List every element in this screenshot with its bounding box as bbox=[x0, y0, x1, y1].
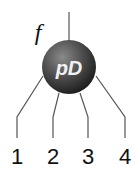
leg-4-label: 4 bbox=[119, 144, 131, 169]
leg-2-line bbox=[53, 93, 59, 138]
leg-2-label: 2 bbox=[47, 144, 59, 169]
leg-1-label: 1 bbox=[11, 144, 23, 169]
function-label: f bbox=[35, 19, 45, 45]
leg-3-line bbox=[80, 93, 88, 138]
tensor-diagram: pD f 1 2 3 4 bbox=[0, 0, 135, 169]
leg-3-label: 3 bbox=[82, 144, 94, 169]
leg-1-line bbox=[17, 76, 43, 138]
leg-4-line bbox=[96, 76, 125, 138]
node-label: pD bbox=[55, 57, 83, 79]
